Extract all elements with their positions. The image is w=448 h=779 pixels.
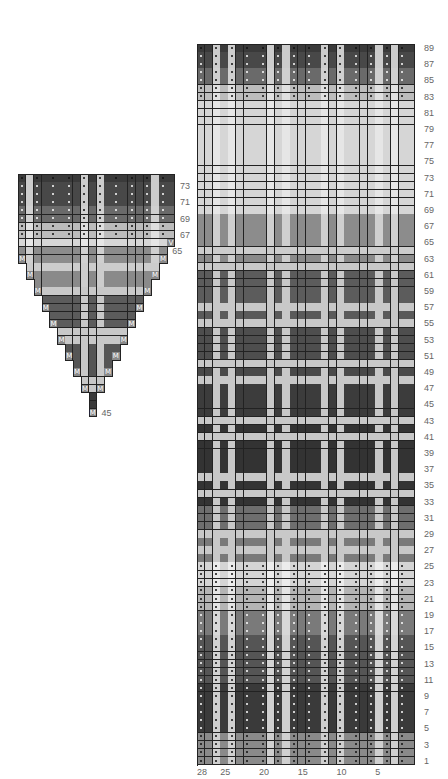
stitch-dot-icon [231,87,233,89]
stitch-dot-icon [200,735,202,737]
stitch-dot-icon [355,630,357,632]
stitch-dot-icon [115,177,117,179]
row-number-label: 47 [424,383,434,393]
stitch-dot-icon [339,63,341,65]
stitch-dot-icon [52,201,54,203]
stitch-dot-icon [293,630,295,632]
stitch-dot-icon [231,735,233,737]
stitch-dot-icon [355,711,357,713]
stitch-dot-icon [386,695,388,697]
stitch-dot-icon [68,201,70,203]
stitch-dot-icon [370,687,372,689]
stitch-dot-icon [339,565,341,567]
stitch-dot-icon [308,654,310,656]
stitch-dot-icon [324,79,326,81]
stitch-dot-icon [200,662,202,664]
stitch-dot-icon [339,630,341,632]
stitch-dot-icon [386,55,388,57]
stitch-dot-icon [293,703,295,705]
stitch-dot-icon [308,565,310,567]
stitch-dot-icon [401,55,403,57]
stitch-dot-icon [215,670,217,672]
stitch-dot-icon [277,703,279,705]
make-one-stitch-icon: M [144,287,151,295]
stitch-dot-icon [339,573,341,575]
stitch-dot-icon [355,598,357,600]
row-number-label: 25 [424,561,434,571]
row-number-label: 81 [424,108,434,118]
stitch-dot-icon [308,687,310,689]
stitch-dot-icon [308,606,310,608]
stitch-dot-icon [162,193,164,195]
stitch-dot-icon [339,71,341,73]
stitch-dot-icon [231,79,233,81]
stitch-dot-icon [401,735,403,737]
stitch-dot-icon [386,670,388,672]
stitch-dot-icon [386,47,388,49]
stitch-dot-icon [308,703,310,705]
make-one-stitch-icon: M [112,352,119,360]
stitch-dot-icon [355,55,357,57]
row-number-label: 15 [424,642,434,652]
make-one-stitch-icon: M [120,336,127,344]
stitch-dot-icon [246,79,248,81]
stitch-dot-icon [293,622,295,624]
stitch-dot-icon [277,87,279,89]
stitch-dot-icon [386,703,388,705]
stitch-dot-icon [277,760,279,762]
stitch-dot-icon [308,751,310,753]
stitch-dot-icon [386,727,388,729]
stitch-dot-icon [83,233,85,235]
stitch-dot-icon [308,695,310,697]
row-number-label: 49 [424,367,434,377]
stitch-dot-icon [386,87,388,89]
row-number-label: 17 [424,626,434,636]
row-number-label: 73 [424,173,434,183]
stitch-dot-icon [200,71,202,73]
stitch-dot-icon [277,679,279,681]
stitch-dot-icon [231,760,233,762]
stitch-dot-icon [215,719,217,721]
row-number-label: 21 [424,594,434,604]
stitch-dot-icon [293,687,295,689]
row-number-label: 23 [424,578,434,588]
stitch-dot-icon [99,233,101,235]
stitch-dot-icon [246,719,248,721]
stitch-dot-icon [36,193,38,195]
stitch-dot-icon [52,177,54,179]
stitch-dot-icon [215,95,217,97]
stitch-dot-icon [277,662,279,664]
stitch-dot-icon [324,63,326,65]
row-number-label: 75 [424,156,434,166]
stitch-dot-icon [115,233,117,235]
stitch-dot-icon [231,573,233,575]
stitch-dot-icon [324,622,326,624]
stitch-dot-icon [83,201,85,203]
stitch-dot-icon [262,598,264,600]
stitch-dot-icon [401,703,403,705]
make-one-stitch-icon: M [58,336,64,344]
stitch-dot-icon [324,598,326,600]
row-number-label: 45 [424,399,434,409]
row-number-label: 59 [424,286,434,296]
stitch-dot-icon [277,646,279,648]
stitch-dot-icon [370,743,372,745]
stitch-dot-icon [246,573,248,575]
stitch-dot-icon [215,598,217,600]
stitch-dot-icon [401,95,403,97]
stitch-dot-icon [370,573,372,575]
stitch-dot-icon [162,225,164,227]
stitch-dot-icon [355,727,357,729]
stitch-dot-icon [308,662,310,664]
stitch-dot-icon [231,622,233,624]
row-number-label: 69 [424,205,434,215]
stitch-dot-icon [339,589,341,591]
stitch-dot-icon [355,606,357,608]
stitch-dot-icon [262,573,264,575]
stitch-dot-icon [21,217,23,219]
stitch-dot-icon [200,47,202,49]
stitch-dot-icon [293,606,295,608]
stitch-dot-icon [262,565,264,567]
stitch-dot-icon [370,638,372,640]
column-number-label: 10 [337,767,347,777]
